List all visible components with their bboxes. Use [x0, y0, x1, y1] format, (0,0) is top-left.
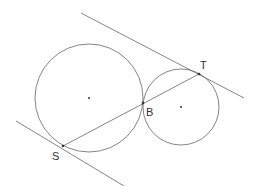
point-B [142, 102, 145, 105]
small-circle-center [180, 106, 182, 108]
segment-ST [63, 74, 199, 146]
point-S [62, 145, 65, 148]
label-T: T [200, 59, 207, 71]
point-T [198, 73, 201, 76]
label-B: B [146, 106, 153, 118]
diagram-canvas: S B T [0, 0, 256, 186]
lower-tangent-line [16, 121, 124, 186]
large-circle-center [88, 97, 90, 99]
label-S: S [52, 150, 59, 162]
upper-tangent-line [81, 13, 244, 98]
